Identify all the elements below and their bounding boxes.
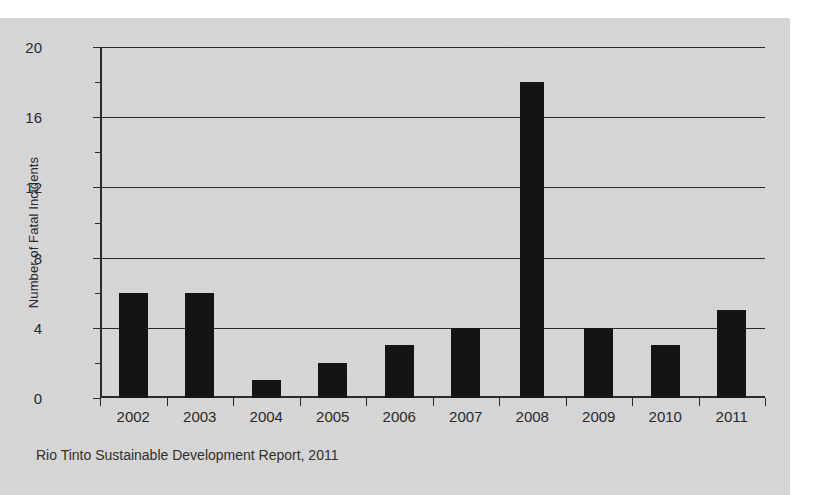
x-axis-tick: [100, 398, 101, 406]
x-axis-tick-label: 2010: [649, 408, 682, 425]
y-axis-tick: [93, 47, 100, 48]
y-axis-minor-tick: [95, 152, 100, 153]
x-axis-tick: [566, 398, 567, 406]
x-axis-tick-label: 2002: [117, 408, 150, 425]
bar: [717, 310, 746, 398]
x-axis-tick: [699, 398, 700, 406]
gridline: [100, 47, 765, 48]
y-axis-minor-tick: [95, 82, 100, 83]
bar: [520, 82, 544, 398]
x-axis-tick: [366, 398, 367, 406]
x-axis-tick-label: 2008: [516, 408, 549, 425]
bar: [651, 345, 680, 398]
x-axis-tick-label: 2009: [582, 408, 615, 425]
bar: [451, 328, 480, 398]
x-axis-tick-label: 2006: [383, 408, 416, 425]
x-axis-tick-label: 2007: [449, 408, 482, 425]
gridline: [100, 187, 765, 188]
y-axis-tick-label: 8: [0, 249, 42, 266]
plot-area: [100, 47, 765, 398]
y-axis-minor-tick: [95, 363, 100, 364]
y-axis-tick-label: 20: [0, 39, 42, 56]
x-axis-tick: [765, 398, 766, 406]
bar: [119, 293, 148, 398]
x-axis-tick: [233, 398, 234, 406]
x-axis-tick: [433, 398, 434, 406]
y-axis-line: [100, 47, 102, 398]
x-axis-tick-label: 2011: [716, 408, 748, 425]
bar: [385, 345, 414, 398]
bar: [252, 380, 281, 398]
bar: [185, 293, 214, 398]
gridline: [100, 258, 765, 259]
gridline: [100, 117, 765, 118]
x-axis-tick: [632, 398, 633, 406]
bar: [584, 328, 613, 398]
chart-page: Number of Fatal Incidents Rio Tinto Sust…: [0, 0, 814, 495]
bar: [318, 363, 347, 398]
y-axis-minor-tick: [95, 293, 100, 294]
x-axis-tick: [499, 398, 500, 406]
y-axis-tick-label: 16: [0, 109, 42, 126]
y-axis-minor-tick: [95, 223, 100, 224]
x-axis-tick-label: 2003: [183, 408, 216, 425]
y-axis-tick-label: 0: [0, 390, 42, 407]
chart-caption: Rio Tinto Sustainable Development Report…: [36, 447, 338, 463]
x-axis-tick: [167, 398, 168, 406]
y-axis-tick: [93, 258, 100, 259]
y-axis-tick: [93, 328, 100, 329]
y-axis-tick: [93, 117, 100, 118]
y-axis-tick-label: 12: [0, 179, 42, 196]
x-axis-tick: [300, 398, 301, 406]
y-axis-tick-label: 4: [0, 319, 42, 336]
x-axis-tick-label: 2005: [316, 408, 349, 425]
y-axis-tick: [93, 187, 100, 188]
y-axis-tick: [93, 398, 100, 399]
bar-chart: Number of Fatal Incidents Rio Tinto Sust…: [0, 0, 814, 495]
x-axis-tick-label: 2004: [250, 408, 283, 425]
